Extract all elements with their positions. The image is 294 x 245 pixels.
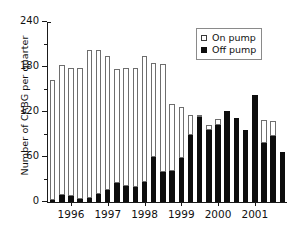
bar-segment-on-pump [261,120,267,143]
x-axis-tick-label: 2000 [205,208,232,220]
chart-figure: Number of CABG per quarter 060120180240 … [0,0,294,245]
x-axis-tick [218,203,219,206]
x-axis-tick-label: 1997 [94,208,121,220]
bar-segment-off-pump [169,171,175,202]
x-axis-line [47,202,287,203]
bar-segment-off-pump [261,143,267,202]
bar [169,105,175,202]
y-axis-minor-tick [44,44,47,45]
bar-segment-off-pump [114,183,120,203]
x-axis-tick [108,203,109,206]
bar-segment-on-pump [160,64,166,172]
legend-label-on-pump: On pump [212,32,256,44]
bar [197,116,203,202]
bar-segment-off-pump [243,130,249,202]
y-axis-tick: 120 [42,111,47,112]
bar-segment-on-pump [114,69,120,183]
bar-segment-on-pump [59,65,65,196]
bar-segment-off-pump [215,125,221,202]
x-axis-tick-label: 1998 [131,208,158,220]
bar-segment-off-pump [270,136,276,202]
bar-segment-off-pump [160,172,166,202]
bar [261,121,267,202]
bar-segment-on-pump [50,80,56,200]
y-axis-tick-label: 0 [33,195,39,206]
bar [234,118,240,202]
y-axis-tick: 60 [42,156,47,157]
legend-item-on-pump: On pump [201,32,256,44]
bar [114,70,120,202]
bar [224,111,230,202]
bar-segment-on-pump [179,107,185,158]
y-axis-tick-label: 120 [20,105,39,116]
bar [133,69,139,202]
bar-segment-off-pump [142,182,148,202]
y-axis-tick-label: 60 [26,150,39,161]
y-axis-minor-tick [44,134,47,135]
bar [270,122,276,202]
bar-segment-on-pump [169,104,175,171]
bar [206,126,212,202]
y-axis-tick-label: 180 [20,60,39,71]
y-axis-tick: 180 [42,66,47,67]
bar-segment-off-pump [87,198,93,202]
bar-segment-on-pump [96,50,102,194]
bar-segment-off-pump [224,111,230,202]
bar [50,81,56,202]
filled-square-icon [201,47,207,53]
bar [77,69,83,203]
bar [142,57,148,202]
y-axis-tick: 0 [42,201,47,202]
bar [96,51,102,202]
x-axis-tick-label: 1999 [168,208,195,220]
bar-segment-off-pump [50,200,56,202]
legend-label-off-pump: Off pump [212,44,256,56]
x-axis-tick [255,203,256,206]
bar-segment-off-pump [179,158,185,202]
bar [243,130,249,202]
bar-segment-off-pump [133,187,139,202]
open-square-icon [201,35,207,41]
bar-segment-off-pump [252,95,258,202]
bar [160,65,166,202]
bar-segment-off-pump [59,195,65,202]
y-axis-minor-tick [44,89,47,90]
legend-item-off-pump: Off pump [201,44,256,56]
bar-segment-off-pump [68,196,74,202]
x-axis-tick-label: 2001 [241,208,268,220]
bar [179,108,185,202]
bar-segment-on-pump [105,56,111,191]
bar-segment-on-pump [68,68,74,196]
x-axis-tick [181,203,182,206]
bar [87,51,93,202]
bar-segment-on-pump [77,68,83,200]
bar [252,95,258,202]
y-axis-tick-label: 240 [20,15,39,26]
bar-segment-off-pump [234,118,240,202]
bar-segment-on-pump [87,50,93,198]
x-axis-tick-label: 1996 [58,208,85,220]
bar [215,120,221,202]
bar-segment-off-pump [96,194,102,202]
x-axis-tick [71,203,72,206]
y-axis-minor-tick [44,179,47,180]
bar [151,64,157,202]
bar-segment-on-pump [188,115,194,135]
chart-legend: On pump Off pump [196,28,262,60]
bar [280,152,286,202]
bar-segment-off-pump [151,157,157,202]
bar-segment-off-pump [206,130,212,202]
bar [188,116,194,202]
bar-segment-on-pump [133,68,139,187]
bar [123,69,129,203]
bar-segment-on-pump [270,121,276,136]
bar [68,69,74,202]
bar [105,57,111,203]
bar-segment-off-pump [280,152,286,202]
x-axis-tick [145,203,146,206]
bar-segment-off-pump [197,117,203,202]
bar-segment-off-pump [123,186,129,203]
bar-segment-on-pump [142,56,148,182]
bar [59,66,65,203]
bar-segment-on-pump [123,68,129,186]
